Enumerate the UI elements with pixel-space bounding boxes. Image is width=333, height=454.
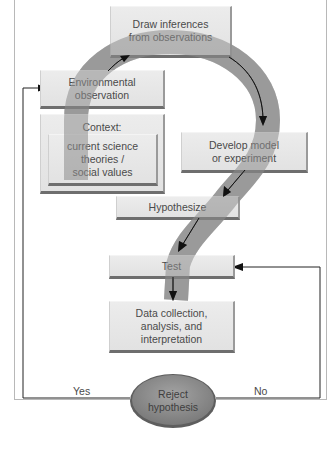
node-draw-inferences: Draw inferencesfrom observations	[110, 6, 232, 58]
node-context-title: Context:	[82, 121, 121, 134]
node-develop-model: Develop modelor experiment	[181, 132, 308, 173]
node-context-line3: social values	[67, 166, 138, 179]
node-test-label: Test	[162, 260, 181, 273]
node-context-line1: current science	[67, 140, 138, 153]
reject-hypothesis-line1: Reject	[148, 388, 198, 401]
node-develop-model-line1: Develop model	[209, 139, 279, 152]
node-data-collection: Data collection,analysis, andinterpretat…	[109, 301, 235, 353]
node-environmental-observation-line2: observation	[68, 89, 135, 102]
node-draw-inferences-line2: from observations	[129, 31, 212, 44]
edge-label-yes: Yes	[73, 385, 90, 397]
node-test: Test	[109, 255, 235, 279]
node-draw-inferences-line1: Draw inferences	[129, 18, 212, 31]
node-data-line3: interpretation	[136, 333, 208, 346]
reject-hypothesis-label: Rejecthypothesis	[132, 375, 214, 427]
node-data-line2: analysis, and	[136, 320, 208, 333]
node-data-line1: Data collection,	[136, 307, 208, 320]
node-develop-model-line2: or experiment	[209, 152, 279, 165]
edge-label-no: No	[254, 385, 267, 397]
node-context-line2: theories /	[67, 153, 138, 166]
reject-hypothesis-line2: hypothesis	[148, 401, 198, 414]
node-hypothesize-label: Hypothesize	[149, 201, 207, 214]
node-context-inner: current sciencetheories /social values	[48, 134, 158, 186]
node-hypothesize: Hypothesize	[116, 196, 240, 220]
node-environmental-observation: Environmentalobservation	[40, 70, 165, 109]
node-environmental-observation-line1: Environmental	[68, 76, 135, 89]
